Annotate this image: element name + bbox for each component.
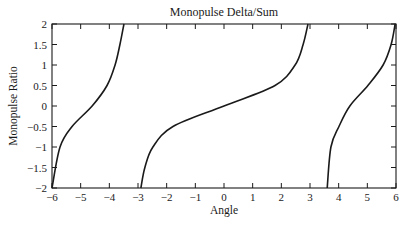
- x-tick-label: 0: [221, 191, 227, 203]
- y-tick-label: 2: [42, 18, 48, 30]
- x-tick-label: 1: [250, 191, 256, 203]
- curve-branch-left: [52, 24, 124, 188]
- series-layer: [52, 24, 395, 188]
- y-tick-label: −0.5: [27, 121, 47, 133]
- y-tick-label: 1: [42, 59, 48, 71]
- y-tick-label: −1: [35, 141, 47, 153]
- x-axis: −6−5−4−3−2−10123456: [46, 24, 399, 203]
- x-tick-label: 6: [393, 191, 399, 203]
- y-tick-label: 0: [42, 100, 48, 112]
- x-tick-label: −2: [161, 191, 173, 203]
- x-tick-label: −6: [46, 191, 58, 203]
- x-tick-label: 5: [365, 191, 371, 203]
- y-axis-label: Monopulse Ratio: [7, 66, 20, 146]
- x-tick-label: −4: [103, 191, 115, 203]
- x-tick-label: −5: [75, 191, 87, 203]
- x-tick-label: −1: [189, 191, 201, 203]
- monopulse-chart: Monopulse Delta/Sum −6−5−4−3−2−10123456 …: [0, 0, 409, 229]
- y-tick-label: −2: [35, 182, 47, 194]
- curve-branch-right: [327, 24, 395, 188]
- x-tick-label: −3: [132, 191, 144, 203]
- y-tick-label: −1.5: [27, 162, 47, 174]
- x-axis-label: Angle: [210, 204, 238, 217]
- y-axis: 21.510.50−0.5−1−1.5−2: [27, 18, 396, 194]
- curve-branch-center: [141, 24, 308, 188]
- x-tick-label: 4: [336, 191, 342, 203]
- y-tick-label: 0.5: [33, 80, 47, 92]
- chart-title: Monopulse Delta/Sum: [170, 5, 279, 19]
- x-tick-label: 3: [307, 191, 313, 203]
- y-tick-label: 1.5: [33, 39, 47, 51]
- x-tick-label: 2: [279, 191, 285, 203]
